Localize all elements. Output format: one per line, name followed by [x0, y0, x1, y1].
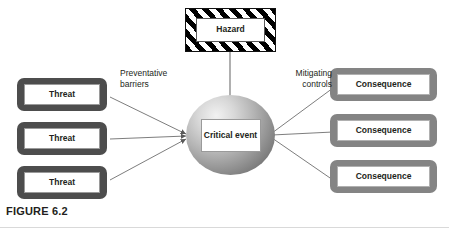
- connector-consequence-3: [272, 138, 333, 180]
- preventative-barriers-label: Preventative barriers: [120, 68, 167, 89]
- threat-box[interactable]: Threat: [17, 122, 107, 155]
- threat-label: Threat: [24, 172, 100, 193]
- figure-container: Hazard Threat Threat Threat Critical eve…: [0, 0, 449, 231]
- critical-event-circle[interactable]: Critical event: [186, 95, 275, 175]
- consequence-label: Consequence: [337, 166, 430, 187]
- consequence-box[interactable]: Consequence: [330, 160, 437, 193]
- connector-threat-3: [110, 139, 186, 180]
- consequence-box[interactable]: Consequence: [330, 68, 437, 101]
- figure-divider: [0, 227, 449, 228]
- connector-consequence-2: [272, 132, 333, 135]
- threat-label: Threat: [24, 128, 100, 149]
- consequence-label: Consequence: [337, 74, 430, 95]
- connector-threat-1: [110, 97, 186, 134]
- threat-box[interactable]: Threat: [17, 78, 107, 111]
- consequence-box[interactable]: Consequence: [330, 114, 437, 147]
- hazard-box[interactable]: Hazard: [185, 8, 276, 52]
- critical-event-label: Critical event: [201, 119, 261, 152]
- consequence-label: Consequence: [337, 120, 430, 141]
- hazard-label: Hazard: [196, 18, 265, 42]
- threat-label: Threat: [24, 84, 100, 105]
- figure-caption: FIGURE 6.2: [6, 205, 68, 217]
- mitigating-controls-label: Mitigating controls: [260, 68, 332, 89]
- connector-consequence-1: [272, 88, 333, 133]
- connector-threat-2: [110, 136, 186, 139]
- threat-box[interactable]: Threat: [17, 166, 107, 199]
